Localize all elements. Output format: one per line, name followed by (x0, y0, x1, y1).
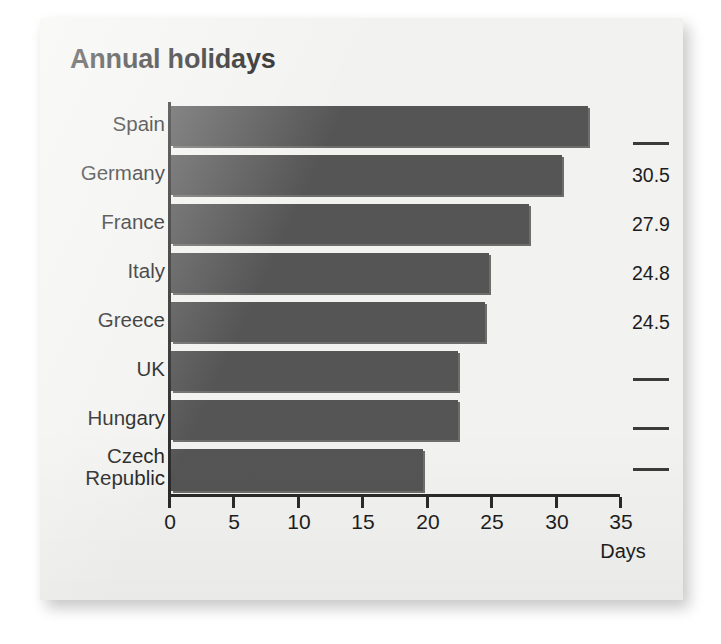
value-label-greece: 24.5 (632, 311, 670, 334)
value-label-czech-republic (633, 468, 669, 471)
bar-germany (171, 155, 562, 195)
bar-spain (171, 106, 588, 146)
value-label-hungary (633, 427, 669, 430)
bar-italy (171, 253, 489, 293)
x-tick-label-35: 35 (609, 510, 632, 534)
category-label-hungary: Hungary (88, 407, 166, 429)
x-tick-label-30: 30 (545, 510, 568, 534)
x-tick-label-10: 10 (287, 510, 310, 534)
bar-greece (171, 302, 485, 342)
x-tick-label-25: 25 (480, 510, 503, 534)
value-label-france: 27.9 (632, 213, 670, 236)
bar-uk (171, 351, 458, 391)
y-axis-line (168, 102, 171, 494)
x-tick-0 (168, 497, 171, 508)
x-tick-5 (232, 497, 235, 508)
x-tick-25 (490, 497, 493, 508)
category-label-france: France (101, 211, 165, 233)
x-axis-line (168, 494, 620, 497)
x-tick-20 (426, 497, 429, 508)
figure-page: Annual holidays Spain Germany France Ita… (0, 0, 721, 644)
category-label-spain: Spain (113, 113, 165, 135)
category-label-greece: Greece (98, 309, 165, 331)
x-tick-label-0: 0 (164, 510, 176, 534)
chart-card: Annual holidays Spain Germany France Ita… (40, 18, 683, 600)
x-axis-title: Days (580, 540, 666, 563)
x-tick-10 (297, 497, 300, 508)
value-label-spain (633, 142, 669, 145)
value-label-uk (633, 378, 669, 381)
x-tick-label-5: 5 (228, 510, 240, 534)
x-tick-label-20: 20 (416, 510, 439, 534)
bar-france (171, 204, 529, 244)
bar-hungary (171, 400, 458, 440)
x-tick-35 (619, 497, 622, 508)
category-label-italy: Italy (127, 260, 165, 282)
bar-czech-republic (171, 449, 423, 491)
x-tick-label-15: 15 (351, 510, 374, 534)
value-label-italy: 24.8 (632, 262, 670, 285)
category-label-uk: UK (137, 358, 165, 380)
plot-area: Spain Germany France Italy Greece UK Hun… (40, 18, 683, 600)
category-label-czech-republic: Czech Republic (85, 445, 165, 489)
x-tick-30 (555, 497, 558, 508)
x-tick-15 (361, 497, 364, 508)
category-label-germany: Germany (81, 162, 165, 184)
value-label-germany: 30.5 (632, 164, 670, 187)
